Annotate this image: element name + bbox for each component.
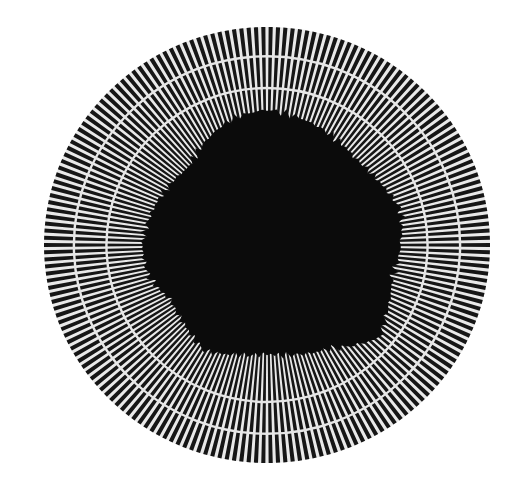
- radial-spoke-target: [0, 0, 522, 493]
- radial-target-figure: [0, 0, 522, 493]
